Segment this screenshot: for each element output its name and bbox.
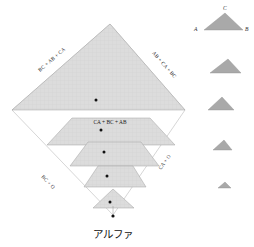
layer-4-dot — [106, 175, 109, 178]
legend-group: C A B — [193, 5, 249, 188]
pyramid-diagram: BC + AB + CA AB + CA + BC BC + O CA + O … — [0, 0, 254, 247]
legend-vertex-label-left: A — [193, 26, 198, 32]
layer-1-dot — [95, 99, 98, 102]
layer-5-dot — [109, 201, 112, 204]
layer-4-trapezoid — [84, 166, 146, 187]
legend-vertex-label-apex: C — [223, 5, 227, 11]
bottom-vertex-dot — [111, 214, 114, 217]
layer-3-trapezoid — [70, 142, 159, 166]
edge-label-upper-right: AB + CA + BC — [151, 50, 178, 80]
legend-vertex-label-right: B — [245, 26, 249, 32]
legend-triangle-4 — [213, 140, 232, 150]
layer-5-small-triangle — [93, 189, 134, 208]
edge-label-lower-right: CA + O — [157, 153, 172, 170]
edge-label-lower-left: BC + O — [40, 174, 56, 191]
legend-triangle-1: C A B — [193, 5, 249, 32]
alpha-label: アルファ — [93, 228, 133, 240]
legend-triangle-3 — [208, 97, 234, 110]
layer-3-dot — [103, 151, 106, 154]
center-label: CA + BC + AB — [93, 119, 126, 125]
layer-2-dot — [100, 129, 103, 132]
legend-triangle-5 — [218, 182, 231, 188]
legend-triangle-2 — [210, 59, 241, 73]
figure-canvas: BC + AB + CA AB + CA + BC BC + O CA + O … — [0, 0, 254, 247]
